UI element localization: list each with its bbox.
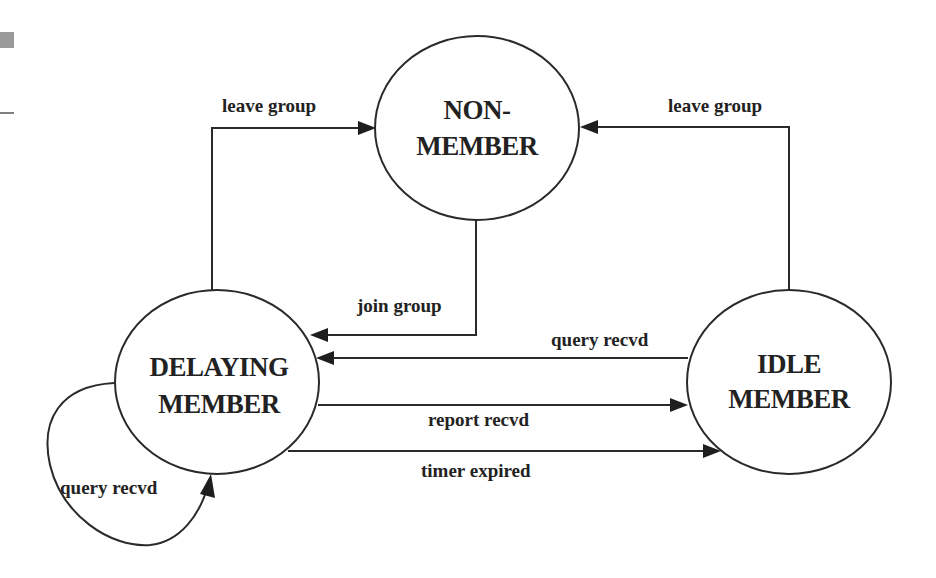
transition-timer-expired: timer expired [288, 444, 721, 481]
state-label: MEMBER [728, 384, 850, 414]
transition-report-recvd: report recvd [318, 398, 688, 430]
arrowhead-icon [358, 121, 376, 135]
state-label: IDLE [757, 349, 821, 379]
arrowhead-icon [310, 328, 328, 342]
arrowhead-icon [670, 398, 688, 412]
edge-label: leave group [222, 95, 316, 116]
arrowhead-icon [580, 120, 598, 134]
state-label: MEMBER [416, 131, 538, 161]
edge-label: timer expired [421, 460, 531, 481]
arrowhead-icon [200, 474, 215, 498]
arrowhead-icon [316, 351, 334, 365]
transition-leave-group-left: leave group [212, 95, 376, 290]
edge-label: query recvd [60, 477, 158, 498]
transition-join-group: join group [310, 220, 476, 342]
state-label: MEMBER [158, 389, 280, 419]
transition-leave-group-right: leave group [580, 95, 789, 290]
state-label: NON- [444, 95, 511, 125]
edge-label: leave group [668, 95, 762, 116]
edge-label: query recvd [551, 329, 649, 350]
edge-label: join group [356, 295, 442, 316]
state-label: DELAYING [149, 352, 289, 382]
edge-label: report recvd [428, 409, 530, 430]
state-diagram: leave group leave group join group query… [0, 0, 936, 578]
state-delaying-member: DELAYING MEMBER [115, 290, 319, 474]
margin-mark-square [0, 32, 14, 48]
state-non-member: NON- MEMBER [375, 36, 579, 220]
state-idle-member: IDLE MEMBER [687, 290, 891, 474]
